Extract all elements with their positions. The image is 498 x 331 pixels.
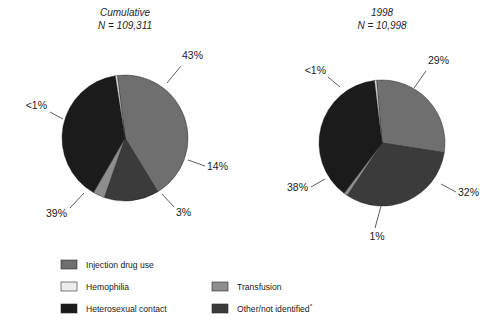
chart-right-title: 1998	[371, 7, 394, 18]
legend-swatch-injection-drug-use	[61, 260, 77, 269]
legend-label-other-not-identified: Other/not identified	[237, 304, 310, 314]
leader-line-right-hemophilia	[328, 77, 340, 87]
legend-footnote-marker: *	[310, 303, 313, 309]
legend-swatch-hemophilia	[61, 282, 77, 291]
label-right-hemophilia: <1%	[305, 64, 326, 76]
label-right-injection: 29%	[428, 54, 449, 66]
leader-line-left-injection	[167, 66, 181, 83]
legend-item-heterosexual-contact[interactable]: Heterosexual contact	[61, 304, 167, 314]
legend-label-heterosexual-contact: Heterosexual contact	[86, 304, 167, 314]
leader-line-right-injection	[414, 71, 426, 88]
chart-right-n-label: N = 10,998	[357, 20, 407, 31]
legend-item-hemophilia[interactable]: Hemophilia	[61, 282, 129, 292]
label-left-transfusion: 3%	[176, 206, 191, 218]
label-left-other: 14%	[207, 160, 228, 172]
legend-swatch-transfusion	[212, 282, 228, 291]
leader-line-left-heterosexual	[70, 193, 84, 208]
chart-left-n-label: N = 109,311	[98, 20, 152, 31]
chart-right-wedges	[319, 80, 445, 206]
legend-swatch-other-not-identified	[212, 304, 228, 313]
leader-line-left-other	[188, 160, 205, 166]
legend-swatch-heterosexual-contact	[61, 304, 77, 313]
label-left-heterosexual: 39%	[46, 207, 67, 219]
legend-item-transfusion[interactable]: Transfusion	[212, 282, 282, 292]
legend-item-other-not-identified[interactable]: Other/not identified *	[212, 303, 313, 314]
label-left-hemophilia: <1%	[26, 99, 47, 111]
leader-line-right-transfusion	[375, 206, 381, 228]
leader-line-left-transfusion	[162, 194, 174, 207]
legend-label-transfusion: Transfusion	[237, 282, 282, 292]
legend-item-injection-drug-use[interactable]: Injection drug use	[61, 260, 154, 270]
leader-line-right-other	[441, 184, 456, 192]
legend-label-hemophilia: Hemophilia	[86, 282, 129, 292]
label-left-injection: 43%	[182, 49, 203, 61]
legend: Injection drug use Hemophilia Heterosexu…	[61, 260, 313, 314]
label-right-transfusion: 1%	[369, 230, 384, 242]
legend-label-injection-drug-use: Injection drug use	[86, 260, 154, 270]
label-right-other: 32%	[458, 186, 479, 198]
pie-chart-figure: Cumulative N = 109,311 43% 14% 3% 39% <1…	[0, 0, 498, 331]
chart-left: Cumulative N = 109,311 43% 14% 3% 39% <1…	[26, 7, 228, 219]
wedge-injection-drug-use-right[interactable]	[377, 80, 445, 153]
chart-right: 1998 N = 10,998 29% 32% 1% 38% <1%	[287, 7, 479, 242]
leader-line-right-heterosexual	[311, 179, 325, 187]
leader-line-left-hemophilia	[50, 112, 63, 119]
chart-left-wedges	[62, 75, 188, 201]
chart-left-title: Cumulative	[100, 7, 150, 18]
label-right-heterosexual: 38%	[287, 181, 308, 193]
